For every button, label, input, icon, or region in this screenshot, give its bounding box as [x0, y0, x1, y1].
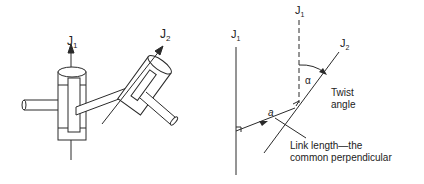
perp-mark	[293, 101, 299, 106]
left-j1-label: J1	[67, 34, 78, 50]
left-rod-end	[22, 100, 26, 110]
link-a-label: a	[268, 107, 274, 118]
j1-slot	[68, 78, 80, 132]
link-length-line	[236, 108, 295, 131]
left-figure-3d-joints	[22, 44, 179, 160]
j2-cylinder	[118, 53, 174, 116]
link-length-line1: Link length—the	[290, 140, 363, 151]
link-arrowhead-icon	[259, 121, 268, 126]
leader-line	[275, 118, 306, 138]
alpha-label: α	[305, 75, 311, 86]
twist-angle-line2: angle	[331, 99, 356, 110]
link-length-line2: common perpendicular	[290, 152, 392, 163]
right-j2-label: J2	[340, 37, 350, 51]
j1-cylinder-top	[58, 67, 86, 77]
right-j1-dashed-label: J1	[295, 4, 305, 18]
left-rod	[24, 100, 60, 110]
right-j1-label: J1	[231, 28, 241, 42]
j2-arrowhead-icon	[155, 46, 163, 55]
left-j2-label: J2	[160, 27, 171, 43]
j2-axis-line	[264, 52, 339, 153]
twist-angle-line1: Twist	[331, 87, 354, 98]
joint-link-diagram: J1 J2 J1 J1 J2 α a Twist angle Link leng…	[0, 0, 424, 184]
